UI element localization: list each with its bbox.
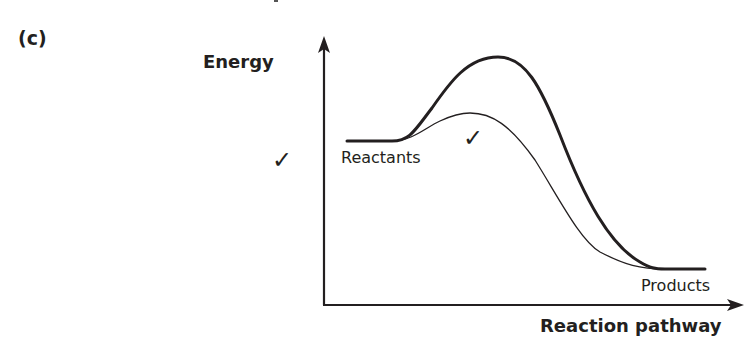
energy-diagram: [0, 0, 752, 350]
catalysed-curve: [392, 113, 665, 269]
reactants-label: Reactants: [341, 148, 421, 167]
products-label: Products: [641, 276, 710, 295]
checkmark-icon: ✓: [272, 146, 292, 174]
checkmark-icon: ✓: [463, 124, 483, 152]
